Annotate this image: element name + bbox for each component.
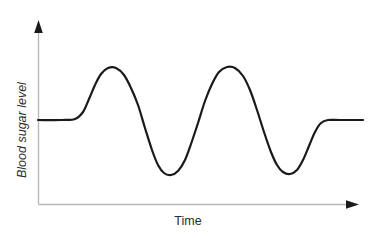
x-axis-arrow-icon [346,200,359,209]
y-axis-arrow-icon [34,20,43,33]
blood-sugar-chart-figure: Blood sugar level Time [0,0,374,238]
y-axis-label: Blood sugar level [15,81,29,178]
chart-canvas: Blood sugar level Time [0,0,374,238]
blood-sugar-curve [38,67,363,175]
x-axis-label: Time [174,214,201,228]
